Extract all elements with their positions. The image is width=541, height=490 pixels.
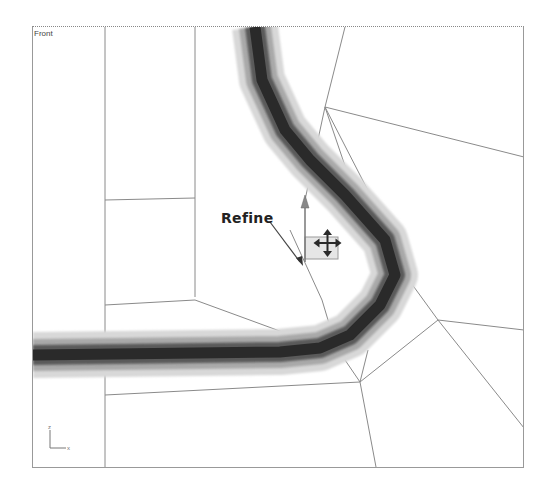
svg-text:x: x (67, 445, 70, 451)
spline-stroke[interactable] (33, 27, 395, 355)
svg-text:z: z (48, 424, 51, 430)
callout-arrow (270, 222, 303, 266)
viewport-scene[interactable]: z x (0, 0, 541, 490)
viewport-label[interactable]: Front (34, 29, 53, 38)
refine-callout-label: Refine (221, 210, 273, 226)
selected-vertex-region[interactable] (305, 237, 338, 259)
axis-tripod-icon: z x (48, 424, 70, 451)
